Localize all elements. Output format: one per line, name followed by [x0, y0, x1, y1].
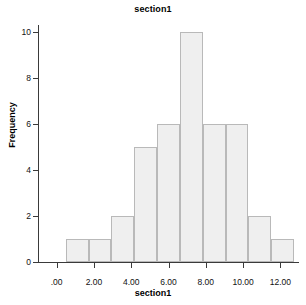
- y-axis-tick-label: 10: [1, 28, 31, 37]
- x-axis-tick-label: 6.00: [160, 277, 177, 287]
- histogram-bar: [203, 124, 226, 262]
- x-axis-tick: [169, 263, 170, 268]
- histogram-bar: [134, 147, 157, 262]
- histogram-bar: [226, 124, 249, 262]
- y-axis-tick: [33, 78, 38, 79]
- x-axis-tick-label: 4.00: [123, 277, 140, 287]
- y-axis-tick-label: 0: [1, 258, 31, 267]
- y-axis-title: Frequency: [7, 75, 17, 175]
- x-axis-tick-label: 10.00: [232, 277, 253, 287]
- chart-title: section1: [0, 4, 306, 14]
- x-axis-title: section1: [0, 288, 306, 298]
- x-axis-tick-label: 8.00: [198, 277, 215, 287]
- x-axis-tick-label: .00: [51, 277, 63, 287]
- x-axis-tick: [131, 263, 132, 268]
- x-axis-tick-label: 12.00: [270, 277, 291, 287]
- y-axis-tick: [33, 124, 38, 125]
- x-axis-tick: [280, 263, 281, 268]
- histogram-bar: [271, 239, 294, 262]
- x-axis-tick: [206, 263, 207, 268]
- histogram-chart: section1 0246810 .002.004.006.008.0010.0…: [0, 0, 306, 305]
- y-axis-tick-label: 2: [1, 212, 31, 221]
- histogram-bar: [66, 239, 89, 262]
- histogram-bar: [111, 216, 134, 262]
- y-axis-tick: [33, 262, 38, 263]
- y-axis-line: [38, 25, 39, 263]
- histogram-bar: [89, 239, 112, 262]
- y-axis-tick: [33, 216, 38, 217]
- x-axis-tick: [57, 263, 58, 268]
- histogram-bar: [248, 216, 271, 262]
- y-axis-tick: [33, 32, 38, 33]
- x-axis-tick: [243, 263, 244, 268]
- histogram-bar: [157, 124, 180, 262]
- x-axis-tick: [94, 263, 95, 268]
- y-axis-tick: [33, 170, 38, 171]
- x-axis-tick-label: 2.00: [86, 277, 103, 287]
- histogram-bar: [180, 32, 203, 262]
